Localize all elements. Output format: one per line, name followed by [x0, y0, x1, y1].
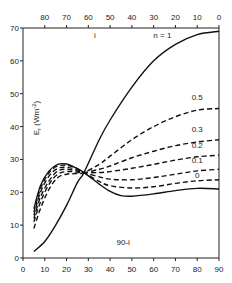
y-tick-label: 10 [10, 221, 19, 230]
x-tick-label: 30 [84, 265, 93, 274]
x-tick-label: 20 [62, 265, 71, 274]
x-top-tick-label: 50 [106, 13, 115, 22]
x-top-tick-label: 40 [127, 13, 136, 22]
x-tick-label: 50 [127, 265, 136, 274]
x-tick-label: 0 [21, 265, 26, 274]
series-solid-lower [34, 164, 219, 209]
y-tick-label: 40 [10, 123, 19, 132]
x-tick-label: 60 [149, 265, 158, 274]
y-tick-label: 70 [10, 24, 19, 33]
x-top-tick-label: 60 [84, 13, 93, 22]
y-tick-label: 0 [15, 254, 20, 263]
x-tick-label: 90 [215, 265, 224, 274]
x-top-tick-label: 0 [217, 13, 222, 22]
y-axis-label: Er (Wm-2) [31, 100, 42, 135]
annotation: n = 1 [153, 31, 172, 40]
x-tick-label: 70 [171, 265, 180, 274]
line-chart: 0102030405060708090807060504030201000102… [0, 0, 232, 283]
y-tick-label: 50 [10, 90, 19, 99]
annotation: 0.5 [192, 93, 204, 102]
x-top-tick-label: 20 [171, 13, 180, 22]
annotation: 90-i [117, 238, 131, 247]
annotation: 0 [195, 171, 200, 180]
y-tick-label: 60 [10, 57, 19, 66]
x-top-tick-label: 80 [40, 13, 49, 22]
x-tick-label: 10 [40, 265, 49, 274]
x-top-tick-label: 10 [193, 13, 202, 22]
y-tick-label: 30 [10, 155, 19, 164]
annotation: 0.1 [192, 156, 204, 165]
annotation: 0.3 [192, 125, 204, 134]
x-top-tick-label: 30 [149, 13, 158, 22]
y-tick-label: 20 [10, 188, 19, 197]
annotation: i [94, 31, 96, 40]
chart-annotations: in = 10.50.30.20.1090-i [94, 31, 203, 247]
x-top-tick-label: 70 [62, 13, 71, 22]
x-tick-label: 80 [193, 265, 202, 274]
x-tick-label: 40 [106, 265, 115, 274]
annotation: 0.2 [192, 141, 204, 150]
series-0-1 [34, 167, 219, 215]
